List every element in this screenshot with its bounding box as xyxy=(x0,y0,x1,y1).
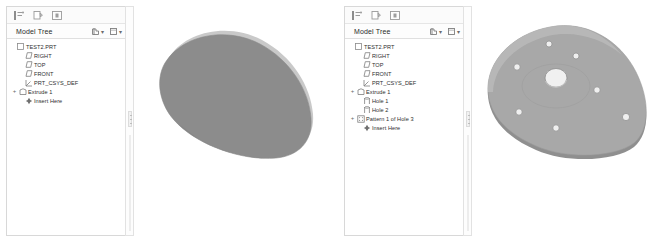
expander[interactable]: + xyxy=(11,88,18,95)
application-screen: Model Tree ▾ ▾ xyxy=(0,0,666,242)
tree-item-datum-right[interactable]: RIGHT xyxy=(7,51,126,60)
pattern-icon xyxy=(356,115,365,123)
dropdown-caret-icon: ▾ xyxy=(457,29,460,35)
coord-system-icon xyxy=(362,79,371,87)
datum-plane-icon xyxy=(362,52,371,60)
hole-icon xyxy=(362,106,371,114)
tree-item-extrude[interactable]: + Extrude 1 xyxy=(345,87,464,96)
tree-item-hole-2[interactable]: Hole 2 xyxy=(345,105,464,114)
dropdown-caret-icon: ▾ xyxy=(119,29,122,35)
tree-item-datum-top[interactable]: TOP xyxy=(7,60,126,69)
model-tree-list-right[interactable]: TEST2.PRT RIGHT TOP xyxy=(345,39,464,235)
insert-mode-icon[interactable] xyxy=(388,9,401,21)
tree-item-label: TOP xyxy=(372,62,384,68)
teardrop-extrusion xyxy=(136,0,342,242)
viewport-patterned-plate[interactable] xyxy=(474,0,666,242)
display-dropdown[interactable]: ▾ xyxy=(447,27,460,36)
tree-item-label: FRONT xyxy=(372,71,392,77)
show-tree-filters-icon[interactable] xyxy=(12,9,25,21)
model-tree-toolbar-left xyxy=(7,7,126,24)
splitter-grip[interactable] xyxy=(128,111,132,127)
tree-item-hole-1[interactable]: Hole 1 xyxy=(345,96,464,105)
model-tree-header-right: Model Tree ▾ ▾ xyxy=(345,24,464,39)
panel-title: Model Tree xyxy=(354,28,391,35)
extrude-icon xyxy=(356,88,365,96)
panel-title: Model Tree xyxy=(16,28,53,35)
panel-splitter-right[interactable] xyxy=(463,6,472,236)
tree-item-label: PRT_CSYS_DEF xyxy=(34,80,78,86)
hole-icon xyxy=(362,97,371,105)
part-icon xyxy=(354,43,363,51)
tree-item-label: TEST2.PRT xyxy=(26,44,57,50)
copy-icon[interactable] xyxy=(31,9,44,21)
model-tree-panel-right: Model Tree ▾ ▾ xyxy=(344,6,464,236)
tree-item-part[interactable]: TEST2.PRT xyxy=(345,42,464,51)
extrude-icon xyxy=(18,88,27,96)
datum-plane-icon xyxy=(24,52,33,60)
tree-item-label: RIGHT xyxy=(34,53,52,59)
tree-item-datum-right[interactable]: RIGHT xyxy=(345,51,464,60)
tree-item-label: FRONT xyxy=(34,71,54,77)
datum-plane-icon xyxy=(362,70,371,78)
header-tools-left: ▾ ▾ xyxy=(91,24,122,39)
datum-plane-icon xyxy=(362,61,371,69)
tree-item-datum-front[interactable]: FRONT xyxy=(345,69,464,78)
patterned-plate-with-holes xyxy=(474,0,666,242)
tree-item-label: Insert Here xyxy=(34,98,62,104)
header-tools-right: ▾ ▾ xyxy=(429,24,460,39)
splitter-rail xyxy=(129,135,131,231)
coord-system-icon xyxy=(24,79,33,87)
tree-item-label: PRT_CSYS_DEF xyxy=(372,80,416,86)
tree-item-label: TOP xyxy=(34,62,46,68)
tree-item-insert-here[interactable]: Insert Here xyxy=(345,123,464,132)
tree-item-coord-system[interactable]: PRT_CSYS_DEF xyxy=(7,78,126,87)
tree-item-datum-top[interactable]: TOP xyxy=(345,60,464,69)
insert-here-icon xyxy=(362,124,371,132)
dropdown-caret-icon: ▾ xyxy=(439,29,442,35)
show-tree-filters-icon[interactable] xyxy=(350,9,363,21)
model-tree-toolbar-right xyxy=(345,7,464,24)
datum-plane-icon xyxy=(24,70,33,78)
tree-item-datum-front[interactable]: FRONT xyxy=(7,69,126,78)
dropdown-caret-icon: ▾ xyxy=(101,29,104,35)
datum-plane-icon xyxy=(24,61,33,69)
expander[interactable]: + xyxy=(349,115,356,122)
splitter-rail xyxy=(467,135,469,231)
model-tree-panel-left: Model Tree ▾ ▾ xyxy=(6,6,126,236)
viewport-extrude-solid[interactable] xyxy=(136,0,342,242)
settings-dropdown[interactable]: ▾ xyxy=(91,27,104,36)
tree-item-label: Extrude 1 xyxy=(366,89,390,95)
model-tree-header-left: Model Tree ▾ ▾ xyxy=(7,24,126,39)
tree-item-label: Hole 2 xyxy=(372,107,388,113)
tree-item-insert-here[interactable]: Insert Here xyxy=(7,96,126,105)
tree-item-part[interactable]: TEST2.PRT xyxy=(7,42,126,51)
part-icon xyxy=(16,43,25,51)
tree-item-extrude[interactable]: + Extrude 1 xyxy=(7,87,126,96)
panel-splitter-left[interactable] xyxy=(125,6,134,236)
splitter-grip[interactable] xyxy=(466,111,470,127)
copy-icon[interactable] xyxy=(369,9,382,21)
tree-item-label: Insert Here xyxy=(372,125,400,131)
tree-item-coord-system[interactable]: PRT_CSYS_DEF xyxy=(345,78,464,87)
tree-item-pattern[interactable]: + Pattern 1 of Hole 3 xyxy=(345,114,464,123)
tree-item-label: Extrude 1 xyxy=(28,89,52,95)
display-dropdown[interactable]: ▾ xyxy=(109,27,122,36)
expander[interactable]: + xyxy=(349,88,356,95)
tree-item-label: Hole 1 xyxy=(372,98,388,104)
model-tree-list-left[interactable]: TEST2.PRT RIGHT TOP xyxy=(7,39,126,235)
tree-item-label: TEST2.PRT xyxy=(364,44,395,50)
insert-mode-icon[interactable] xyxy=(50,9,63,21)
tree-item-label: Pattern 1 of Hole 3 xyxy=(366,116,414,122)
settings-dropdown[interactable]: ▾ xyxy=(429,27,442,36)
insert-here-icon xyxy=(24,97,33,105)
tree-item-label: RIGHT xyxy=(372,53,390,59)
